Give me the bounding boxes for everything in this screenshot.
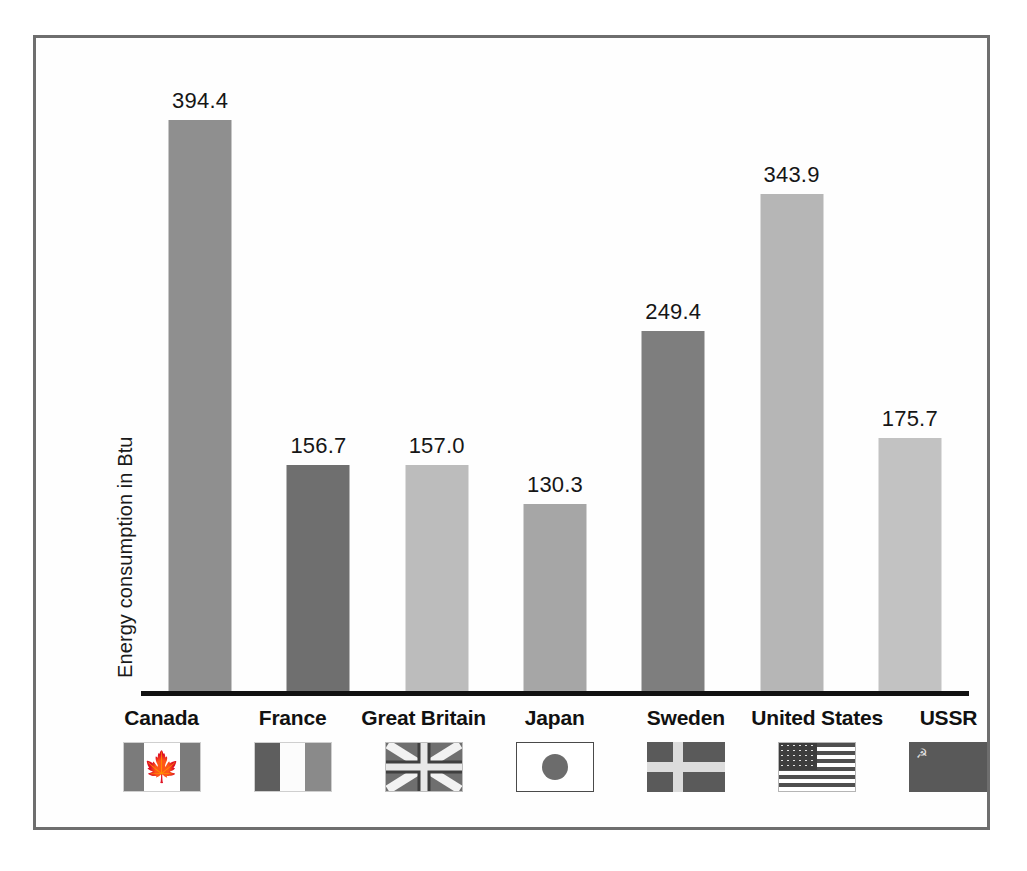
bar-value-label: 343.9: [764, 162, 820, 188]
category-label: France: [259, 706, 327, 730]
bar-group: 394.4: [141, 83, 259, 693]
category-sweden: Sweden: [620, 706, 751, 792]
flag-ussr-icon: ☭: [909, 742, 987, 792]
bar[interactable]: [287, 465, 350, 693]
category-axis: Canada 🍁 France Great Britain Japan: [96, 706, 1014, 846]
flag-united-states-icon: [778, 742, 856, 792]
flag-great-britain-icon: [385, 742, 463, 792]
category-japan: Japan: [489, 706, 620, 792]
bar-group: 249.4: [614, 83, 732, 693]
flag-japan-icon: [516, 742, 594, 792]
bar-value-label: 249.4: [645, 299, 701, 325]
bar[interactable]: [169, 120, 232, 693]
flag-france-icon: [254, 742, 332, 792]
bar-group: 175.7: [851, 83, 969, 693]
category-great-britain: Great Britain: [358, 706, 489, 792]
bar-group: 156.7: [259, 83, 377, 693]
bar-value-label: 175.7: [882, 406, 938, 432]
category-label: Japan: [525, 706, 585, 730]
category-label: Great Britain: [361, 706, 486, 730]
y-axis-title: Energy consumption in Btu: [114, 318, 144, 678]
x-axis-baseline: [141, 691, 969, 696]
category-ussr: USSR ☭: [883, 706, 1014, 792]
bar-group: 157.0: [378, 83, 496, 693]
bar-group: 343.9: [732, 83, 850, 693]
category-label: Sweden: [647, 706, 725, 730]
bar[interactable]: [523, 504, 586, 693]
bar-value-label: 157.0: [409, 433, 465, 459]
flag-canada-icon: 🍁: [123, 742, 201, 792]
bar-value-label: 130.3: [527, 472, 583, 498]
bar-value-label: 156.7: [290, 433, 346, 459]
category-france: France: [227, 706, 358, 792]
bar-group: 130.3: [496, 83, 614, 693]
bar[interactable]: [405, 465, 468, 693]
category-label: USSR: [920, 706, 978, 730]
category-canada: Canada 🍁: [96, 706, 227, 792]
chart-frame: Energy consumption in Btu 394.4156.7157.…: [33, 35, 990, 830]
category-label: United States: [751, 706, 883, 730]
bar-value-label: 394.4: [172, 88, 228, 114]
bar[interactable]: [642, 331, 705, 693]
bar[interactable]: [878, 438, 941, 693]
bar[interactable]: [760, 194, 823, 693]
flag-sweden-icon: [647, 742, 725, 792]
plot-area: 394.4156.7157.0130.3249.4343.9175.7: [141, 83, 969, 693]
category-label: Canada: [124, 706, 199, 730]
category-united-states: United States: [751, 706, 883, 792]
